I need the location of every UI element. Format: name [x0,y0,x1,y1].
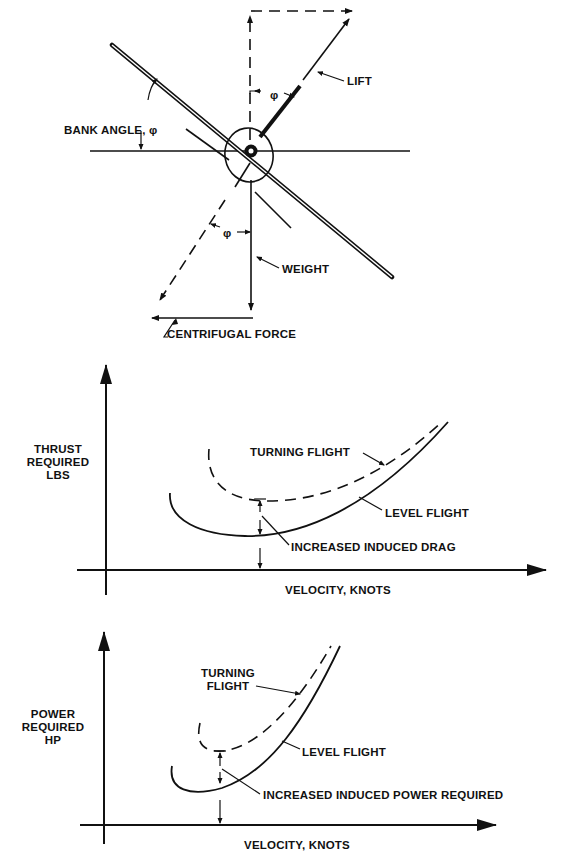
increased-induced-drag-label: INCREASED INDUCED DRAG [291,541,456,553]
y-axis-label-line2: REQUIRED [22,721,84,733]
level-flight-leader [359,497,382,510]
bank-angle-label: BANK ANGLE, φ [64,124,157,136]
turning-flight-label-line1: TURNING [201,667,255,679]
level-flight-label: LEVEL FLIGHT [302,746,386,758]
turning-flight-label-line2: FLIGHT [207,680,250,692]
turning-flight-curve [199,646,331,751]
y-axis-label-line2: REQUIRED [27,456,89,468]
y-axis-label-line1: POWER [31,708,76,720]
turning-flight-label: TURNING FLIGHT [250,446,350,458]
figure-canvas: φ φ BANK ANGLE, φ LIFT WEIGHT CENTRIFUGA… [0,0,572,866]
lift-leader [318,72,344,81]
power-required-chart: POWER REQUIRED HP VELOCITY, KNOTS TURNIN… [22,632,503,851]
x-axis-label: VELOCITY, KNOTS [285,584,391,596]
level-flight-label: LEVEL FLIGHT [385,507,469,519]
y-axis-label-line1: THRUST [34,443,82,455]
thrust-required-chart: THRUST REQUIRED LBS VELOCITY, KNOTS TURN… [27,365,546,596]
x-axis-label: VELOCITY, KNOTS [244,839,350,851]
increased-drag-leader [262,516,289,545]
weight-label: WEIGHT [282,263,329,275]
increased-induced-power-label: INCREASED INDUCED POWER REQUIRED [263,789,503,801]
mast-stub [235,163,250,187]
level-flight-curve [172,646,340,792]
mast-perpendicular-upper [186,129,229,160]
y-axis-label-line3: HP [45,734,62,746]
turning-flight-leader [256,686,300,694]
phi-lower-label: φ [223,227,231,239]
turning-flight-leader [363,453,384,465]
turning-flight-curve [209,421,443,501]
phi-upper-label: φ [270,89,278,101]
level-flight-leader [282,741,300,749]
weight-leader [257,257,279,268]
lift-vector-base [260,86,300,137]
increased-power-leader [222,769,260,794]
centrifugal-force-label: CENTRIFUGAL FORCE [167,328,296,340]
y-axis-label-line3: LBS [46,469,70,481]
mast-perpendicular-lower [255,192,291,228]
resultant-vector [160,200,225,300]
lift-label: LIFT [347,75,372,87]
lift-vector[interactable] [303,19,349,80]
force-diagram: φ φ BANK ANGLE, φ LIFT WEIGHT CENTRIFUGA… [64,11,410,340]
